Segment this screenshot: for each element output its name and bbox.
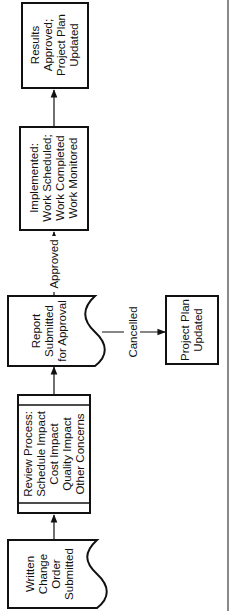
edge-approved: Approved bbox=[47, 232, 61, 296]
edge-label-approved: Approved bbox=[48, 239, 60, 288]
edge-label-cancelled: Cancelled bbox=[127, 306, 139, 357]
node-results-approved: Results Approved; Project Plan Updated bbox=[22, 3, 88, 88]
node-implemented: Implemented: Work Scheduled; Work Comple… bbox=[20, 127, 88, 230]
node-project-plan-updated: Project Plan Updated bbox=[166, 296, 218, 364]
node-written-change-order: Written Change Order Submitted bbox=[8, 540, 107, 608]
node-text: Schedule Impact bbox=[35, 410, 47, 496]
node-text: Work Scheduled; bbox=[41, 134, 53, 221]
node-text: Submitted bbox=[43, 305, 55, 357]
node-text: Order bbox=[50, 559, 62, 589]
node-text: Results bbox=[29, 26, 41, 65]
node-report-submitted: Report Submitted for Approval bbox=[8, 296, 105, 366]
node-text: Project Plan bbox=[179, 299, 191, 361]
flowchart-canvas: Written Change Order Submitted Review Pr… bbox=[0, 0, 231, 611]
node-text: Review Process: bbox=[22, 411, 34, 497]
node-text: Work Monitored bbox=[67, 138, 79, 219]
node-text: Approved; bbox=[42, 19, 54, 71]
node-text: Implemented: bbox=[28, 143, 40, 213]
node-text: Other Concerns bbox=[74, 413, 86, 494]
node-text: Project Plan bbox=[55, 14, 67, 76]
node-text: Cost Impact bbox=[48, 423, 60, 485]
node-text: for Approval bbox=[56, 300, 68, 361]
node-text: Work Completed bbox=[54, 135, 66, 220]
node-review-process: Review Process: Schedule Impact Cost Imp… bbox=[18, 395, 90, 513]
node-text: Report bbox=[30, 313, 42, 348]
node-text: Updated bbox=[192, 308, 204, 351]
node-text: Updated bbox=[68, 23, 80, 66]
node-text: Written bbox=[24, 556, 36, 592]
node-text: Submitted bbox=[63, 548, 75, 600]
node-text: Change bbox=[37, 554, 49, 594]
page-edge-divider bbox=[227, 0, 229, 611]
edge-cancelled: Cancelled bbox=[102, 300, 165, 362]
node-text: Quality Impact bbox=[61, 416, 73, 490]
